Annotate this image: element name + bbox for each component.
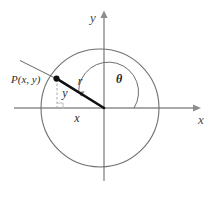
figure-canvas: y x P(x, y) r θ y x: [0, 0, 212, 205]
y-axis-label: y: [88, 10, 96, 25]
x-axis-arrow-icon: [193, 104, 201, 111]
abscissa-label: x: [73, 111, 80, 125]
y-axis-arrow-icon: [100, 11, 107, 19]
radius-label: r: [78, 74, 83, 88]
polar-coordinates-figure: y x P(x, y) r θ y x: [0, 0, 212, 205]
angle-label: θ: [116, 72, 123, 86]
point-p-marker: [53, 76, 59, 82]
ordinate-label: y: [61, 86, 68, 100]
x-axis-label: x: [197, 112, 204, 127]
angle-arc: [79, 62, 139, 108]
point-p-label: P(x, y): [10, 73, 41, 86]
